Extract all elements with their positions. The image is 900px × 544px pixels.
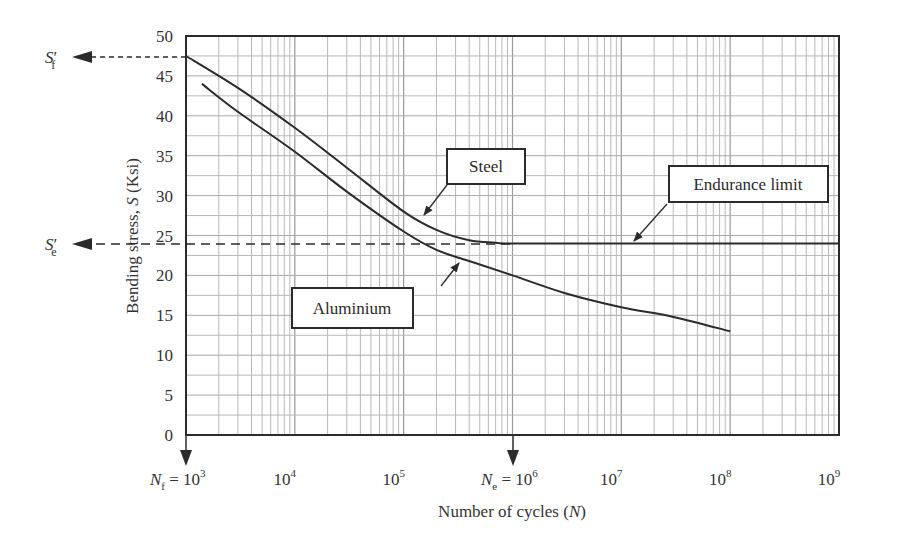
- steel-callout: Steel: [424, 149, 525, 215]
- y-tick-label: 10: [156, 346, 173, 365]
- arrow-left-icon: [72, 238, 92, 250]
- x-axis-ticks: 104105107108109: [274, 467, 841, 489]
- y-tick-label: 45: [156, 67, 173, 86]
- y-tick-label: 50: [156, 27, 173, 46]
- y-tick-label: 5: [165, 386, 174, 405]
- x-tick-label: 109: [818, 467, 841, 489]
- se-label: S′e: [45, 235, 57, 259]
- aluminium-label: Aluminium: [313, 299, 391, 318]
- x-tick-label: 104: [274, 467, 297, 489]
- y-axis-ticks: 05101520253035404550: [156, 27, 173, 445]
- endurance-limit-label: Endurance limit: [693, 175, 802, 194]
- y-tick-label: 40: [156, 107, 173, 126]
- y-tick-label: 35: [156, 147, 173, 166]
- x-tick-label: 107: [600, 467, 623, 489]
- arrow-down-icon: [507, 450, 519, 466]
- nf-tick-label: Nf = 103: [149, 467, 206, 492]
- sn-curve-chart: 05101520253035404550 104105107108109 Ben…: [0, 0, 900, 544]
- x-axis-label: Number of cycles (N): [438, 502, 586, 521]
- y-tick-label: 25: [156, 227, 173, 246]
- x-tick-label: 108: [709, 467, 732, 489]
- y-tick-label: 30: [156, 187, 173, 206]
- sf-label: S′f: [45, 48, 57, 72]
- x-tick-label: 105: [382, 467, 405, 489]
- aluminium-curve: [202, 84, 730, 331]
- arrow-down-icon: [180, 450, 192, 466]
- nf-indicator: Nf = 103: [149, 435, 206, 492]
- y-tick-label: 20: [156, 266, 173, 285]
- y-tick-label: 0: [165, 426, 174, 445]
- grid-lines: [186, 36, 839, 435]
- ne-tick-label: Ne = 106: [480, 467, 538, 492]
- y-axis-label: Bending stress, S (Ksi): [123, 158, 142, 314]
- ne-indicator: Ne = 106: [480, 435, 538, 492]
- endurance-limit-callout: Endurance limit: [634, 166, 828, 241]
- y-tick-label: 15: [156, 306, 173, 325]
- steel-label: Steel: [469, 157, 503, 176]
- arrow-left-icon: [72, 51, 92, 63]
